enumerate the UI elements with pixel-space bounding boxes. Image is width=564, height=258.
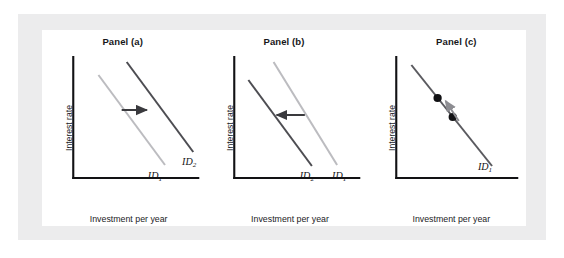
- panel-a-plot: ID1 ID2: [42, 48, 203, 200]
- panel-b-plot: ID2 ID1: [203, 48, 364, 200]
- panel-b-label-id1: ID1: [331, 170, 346, 182]
- panel-a-label-id2: ID2: [181, 156, 197, 168]
- panel-a-curve-id2: [127, 62, 194, 152]
- panel-b-label-id2: ID2: [299, 170, 315, 182]
- panel-a-x-axis-label: Investment per year: [54, 214, 203, 224]
- panel-a-label-id1: ID1: [147, 170, 162, 182]
- panel-c-title: Panel (c): [365, 36, 526, 47]
- panel-a-title: Panel (a): [42, 36, 203, 47]
- panel-b-title: Panel (b): [203, 36, 364, 47]
- figure-root: Panel (a) Interest rate ID1: [0, 0, 564, 258]
- panel-c-plot: ID1: [365, 48, 526, 200]
- panels-row: Panel (a) Interest rate ID1: [42, 30, 526, 226]
- panel-c-x-axis-label: Investment per year: [377, 214, 526, 224]
- panel-b-x-axis-label: Investment per year: [215, 214, 364, 224]
- panel-a-curve-id1: [98, 75, 165, 165]
- panel-b-curve-id2: [249, 80, 313, 166]
- panel-a: Panel (a) Interest rate ID1: [42, 30, 203, 226]
- panel-b-curve-id1: [274, 62, 338, 165]
- panel-b: Panel (b) Interest rate ID2 ID1: [203, 30, 364, 226]
- panel-c: Panel (c) Interest rate ID1: [365, 30, 526, 226]
- panel-c-upper-point: [433, 94, 441, 102]
